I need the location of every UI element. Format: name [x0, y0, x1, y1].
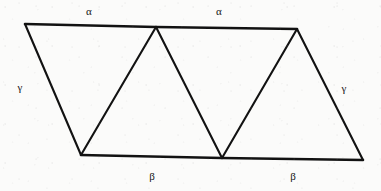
- angle-label-alpha-top-left: α: [86, 6, 92, 17]
- edge-group: [25, 24, 363, 160]
- diagonal-three: [222, 29, 297, 158]
- triangle-strip-drawing: [0, 0, 381, 191]
- diagonal-two: [156, 27, 222, 158]
- angle-label-gamma-left: γ: [18, 82, 23, 93]
- angle-label-gamma-right: γ: [342, 83, 347, 94]
- left-slant-edge: [25, 24, 81, 155]
- angle-label-beta-bottom-left: β: [149, 171, 155, 182]
- angle-label-beta-bottom-right: β: [290, 171, 296, 182]
- top-edge-right: [156, 27, 297, 29]
- bottom-edge-right: [222, 158, 363, 160]
- right-slant-edge: [297, 29, 363, 160]
- bottom-edge-left: [81, 155, 222, 158]
- geometry-figure: ααγγββ: [0, 0, 381, 191]
- diagonal-one: [81, 27, 156, 155]
- angle-label-alpha-top-right: α: [216, 6, 222, 17]
- top-edge-left: [25, 24, 156, 27]
